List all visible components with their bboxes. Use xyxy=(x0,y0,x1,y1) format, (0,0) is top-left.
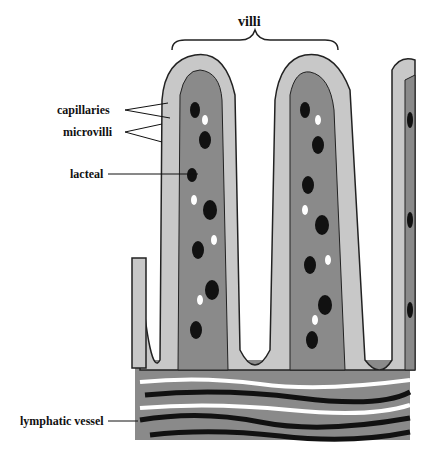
villi-epithelium xyxy=(132,54,415,370)
villi-diagram: villi capillaries microvilli lacteal lym… xyxy=(0,0,433,456)
villi-brace xyxy=(172,30,338,50)
lacteal-label: lacteal xyxy=(70,167,103,182)
villi-illustration xyxy=(0,0,433,456)
villus-cores xyxy=(178,70,415,370)
microvilli-label: microvilli xyxy=(63,125,112,140)
villi-label: villi xyxy=(238,14,261,30)
lymphatic-vessel-label: lymphatic vessel xyxy=(20,414,104,429)
capillaries-label: capillaries xyxy=(57,103,110,118)
